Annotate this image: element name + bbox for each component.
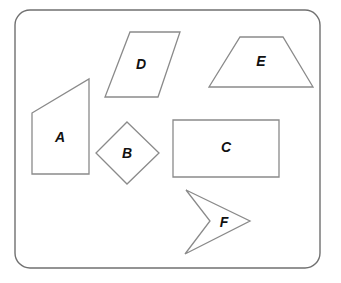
shapes-diagram: D E A B C F — [0, 0, 341, 283]
label-c: C — [221, 139, 232, 155]
label-b: B — [122, 145, 132, 161]
label-f: F — [220, 214, 229, 230]
label-d: D — [136, 56, 146, 72]
label-e: E — [256, 53, 266, 69]
label-a: A — [54, 129, 65, 145]
